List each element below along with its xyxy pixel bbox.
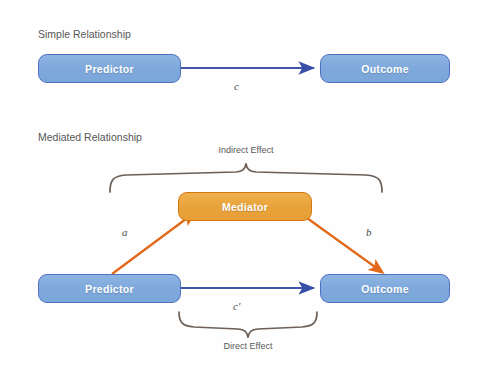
direct-effect-label: Direct Effect xyxy=(198,341,298,351)
indirect-effect-label: Indirect Effect xyxy=(196,145,296,155)
mediator-node: Mediator xyxy=(178,192,312,221)
path-b-arrow xyxy=(300,213,382,272)
indirect-effect-brace xyxy=(110,164,382,192)
mediated-outcome-label: Outcome xyxy=(361,283,409,295)
path-a-arrow xyxy=(112,213,194,274)
path-b-label: b xyxy=(366,226,372,238)
mediation-diagram: Simple Relationship Predictor Outcome c … xyxy=(0,0,482,368)
path-c-prime-label: c′ xyxy=(233,300,240,312)
simple-predictor-node: Predictor xyxy=(38,54,181,83)
mediator-label: Mediator xyxy=(222,201,268,213)
path-a-label: a xyxy=(122,226,128,238)
mediated-predictor-node: Predictor xyxy=(38,274,181,303)
mediated-relationship-title: Mediated Relationship xyxy=(38,131,142,143)
direct-effect-brace xyxy=(179,312,317,337)
mediated-outcome-node: Outcome xyxy=(320,274,450,303)
path-c-label: c xyxy=(234,80,239,92)
simple-outcome-node: Outcome xyxy=(320,54,450,83)
simple-predictor-label: Predictor xyxy=(85,63,134,75)
simple-outcome-label: Outcome xyxy=(361,63,409,75)
mediated-predictor-label: Predictor xyxy=(85,283,134,295)
simple-relationship-title: Simple Relationship xyxy=(38,28,131,40)
